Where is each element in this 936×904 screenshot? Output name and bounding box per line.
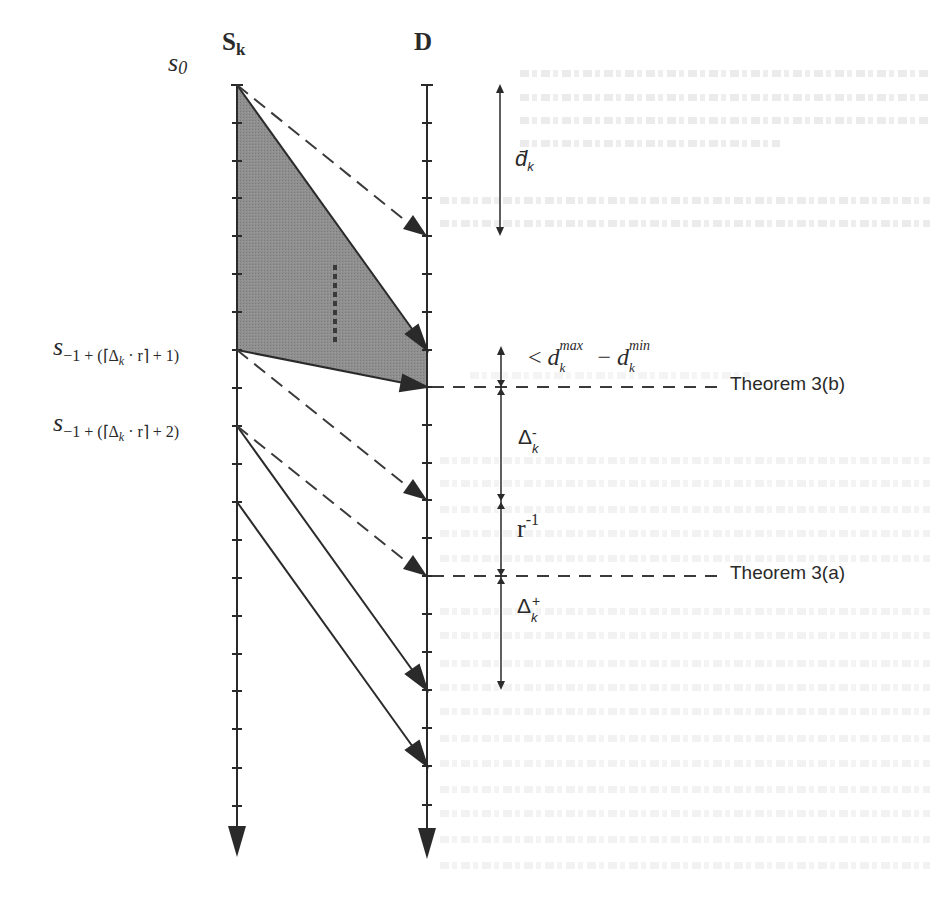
d-bar-dimension-arrow xyxy=(496,84,504,236)
dmax-minus-dmin-label: < dmaxk − dmink xyxy=(528,344,661,371)
shaded-region xyxy=(237,85,427,387)
sender-label-plus-2: s−1 + (⌈Δk · r⌉ + 2) xyxy=(53,408,179,438)
sender-axis-title: Sk xyxy=(222,28,245,56)
timing-diagram xyxy=(0,0,936,904)
theorem-3b-label: Theorem 3(b) xyxy=(730,373,845,395)
sender-label-plus-1: s−1 + (⌈Δk · r⌉ + 1) xyxy=(53,332,179,362)
theorem-reference-lines xyxy=(432,387,726,576)
dimension-chain xyxy=(497,346,505,690)
start-label: s0 xyxy=(168,48,187,78)
delta-minus-label: Δ-k xyxy=(518,425,542,449)
theorem-3a-label: Theorem 3(a) xyxy=(730,562,845,584)
receiver-axis-title: D xyxy=(414,28,432,56)
r-inverse-label: r-1 xyxy=(517,514,539,544)
delta-plus-label: Δ+k xyxy=(517,594,541,618)
receiver-axis xyxy=(418,85,436,859)
d-bar-label: d̄k xyxy=(515,146,534,172)
